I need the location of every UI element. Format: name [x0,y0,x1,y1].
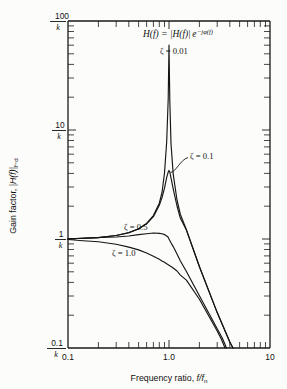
y-axis-title: Gain factor, |H(f)|f−d [8,158,19,234]
curve-zeta-0.5 [68,233,227,348]
y-tick-den-1: k [59,241,63,250]
equation-magnitude: |H(f)| [170,29,191,40]
y-tick-num-0.1: 0.1 [51,338,63,348]
x-axis-title-prefix: Frequency ratio, [131,373,197,383]
x-axis-ticks [98,21,265,348]
curve-label-zeta-0.01: ζ = 0.01 [160,46,188,56]
y-axis-title-sub: f−d [12,158,19,167]
x-axis-title-sub: n [204,377,208,384]
equation-annotation: H(f)=|H(f)|e−jφ(f) [142,28,213,40]
chart-svg: 0.1 1.0 10 100 k 10 k 1 k 0.1 k ζ = 0.01… [0,0,287,389]
equation-lhs: H(f) [142,29,159,40]
y-tick-den-100: k [56,23,60,32]
y-tick-label-10k: 10 k [52,120,66,141]
curve-label-zeta-0.1: ζ = 0.1 [190,151,213,161]
svg-text:H(f)=|H(f)|e−jφ(f): H(f)=|H(f)|e−jφ(f) [142,28,213,40]
equation-exponent: −jφ(f) [197,28,213,36]
y-axis-title-symbol: |H(f)| [8,167,18,186]
figure-container: 0.1 1.0 10 100 k 10 k 1 k 0.1 k ζ = 0.01… [0,0,287,389]
y-tick-num-1: 1 [59,229,64,239]
y-tick-num-10: 10 [55,120,65,130]
x-tick-label-1: 1.0 [163,352,175,362]
x-tick-label-2: 10 [265,352,275,362]
y-tick-den-10: k [57,132,61,141]
y-tick-den-0.1: k [54,350,58,359]
y-axis-title-prefix: Gain factor, [8,186,18,233]
curve-zeta-0.1 [68,170,233,348]
curve-label-zeta-1.0: ζ = 1.0 [112,248,135,258]
y-tick-label-1k: 1 k [55,229,66,250]
y-tick-label-100k: 100 k [50,11,69,32]
curve-zeta-1.0 [68,240,225,349]
x-tick-label-0: 0.1 [62,352,74,362]
curve-zeta-0.01 [68,45,233,348]
equation-equals: = [162,29,167,39]
svg-text:Gain factor, |H(f)|f−d: Gain factor, |H(f)|f−d [8,158,19,234]
y-tick-num-100: 100 [55,11,69,21]
svg-text:Frequency ratio, f/fn: Frequency ratio, f/fn [131,373,208,384]
equation-exp-base: e [192,29,196,39]
x-axis-title: Frequency ratio, f/fn [131,373,208,384]
data-curves [68,45,233,348]
curve-label-zeta-0.5: ζ = 0.5 [124,222,147,232]
